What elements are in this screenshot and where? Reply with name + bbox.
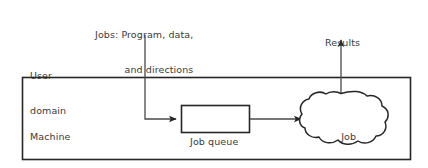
machine-domain-label: Machine domain bbox=[30, 108, 70, 167]
job-execution-label: Job execution bbox=[325, 108, 372, 167]
jobs-input-label: Jobs: Program, data, and directions bbox=[95, 6, 193, 98]
machine-domain-label-line2: domain bbox=[30, 166, 70, 168]
results-output-label-line1: Results bbox=[325, 37, 360, 49]
jobs-input-label-line1: Jobs: Program, data, bbox=[95, 29, 193, 41]
user-domain-label-line1: User bbox=[30, 70, 66, 82]
job-queue-label: Job queue bbox=[190, 113, 238, 167]
job-execution-label-line2: execution bbox=[325, 166, 372, 168]
diagram-canvas: Jobs: Program, data, and directions Resu… bbox=[0, 0, 428, 167]
jobs-input-label-line2: and directions bbox=[95, 64, 193, 76]
job-queue-label-line1: Job queue bbox=[190, 136, 238, 148]
machine-domain-label-line1: Machine bbox=[30, 131, 70, 143]
results-output-label: Results bbox=[325, 14, 360, 72]
job-execution-label-line1: Job bbox=[325, 131, 372, 143]
